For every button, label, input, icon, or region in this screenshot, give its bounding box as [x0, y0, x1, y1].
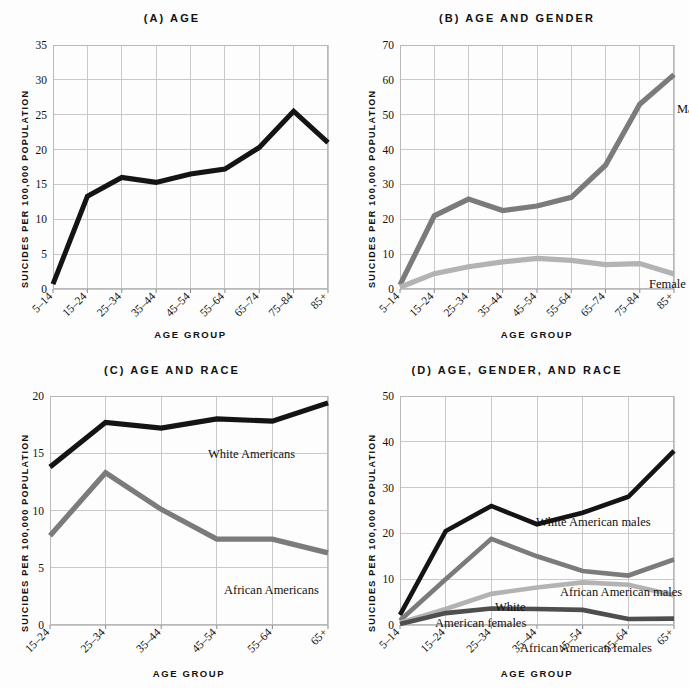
x-axis-tick-label: 65+ — [308, 626, 329, 647]
y-axis-tick-label: 15 — [33, 447, 45, 459]
y-axis-tick-label: 10 — [383, 248, 395, 260]
x-axis-tick-label: 45–54 — [163, 290, 192, 319]
x-axis-tick-label: 85+ — [308, 290, 329, 311]
series-inline-label: African Americans — [224, 583, 319, 597]
panel-b-plot: 0102030405060705–1415–2425–3435–4445–545… — [400, 45, 674, 289]
panel-b-svg: 0102030405060705–1415–2425–3435–4445–545… — [400, 45, 674, 289]
x-axis-tick-label: 25–34 — [78, 626, 107, 655]
panel-b-ylabel: SUICIDES PER 100,000 POPULATION — [367, 90, 377, 288]
x-axis-tick-label: 75–84 — [612, 290, 641, 319]
y-axis-tick-label: 40 — [383, 436, 395, 448]
y-axis-tick-label: 5 — [38, 562, 44, 574]
series-inline-label: Female — [649, 277, 686, 291]
series-inline-label: African American females — [520, 641, 652, 655]
panel-a-ylabel: SUICIDES PER 100,000 POPULATION — [20, 90, 30, 288]
panel-a-xlabel: AGE GROUP — [53, 329, 328, 340]
series-line-african-americans — [50, 473, 328, 553]
x-axis-tick-label: 35–44 — [134, 626, 163, 655]
y-axis-tick-label: 70 — [383, 39, 395, 51]
y-axis-tick-label: 10 — [33, 505, 45, 517]
x-axis-tick-label: 25–34 — [94, 290, 123, 319]
panel-a-plot: 051015202530355–1415–2425–3435–4445–5455… — [53, 45, 328, 289]
y-axis-tick-label: 25 — [36, 109, 48, 121]
x-axis-tick-label: 55–64 — [245, 626, 274, 655]
y-axis-tick-label: 60 — [383, 74, 395, 86]
y-axis-tick-label: 30 — [383, 482, 395, 494]
series-inline-label: Male — [677, 102, 689, 116]
y-axis-tick-label: 30 — [36, 74, 48, 86]
y-axis-tick-label: 20 — [383, 213, 395, 225]
x-axis-tick-label: 55–64 — [197, 290, 226, 319]
panel-a-svg: 051015202530355–1415–2425–3435–4445–5455… — [53, 45, 328, 289]
x-axis-tick-label: 55–64 — [544, 290, 573, 319]
series-inline-label: White American males — [536, 515, 651, 529]
y-axis-tick-label: 20 — [383, 527, 395, 539]
panel-d-plot: 010203040505–1415–2425–3435–4445–5455–64… — [400, 396, 674, 625]
panel-c-plot: 0510152015–2425–3435–4445–5455–6465+Whit… — [50, 396, 328, 625]
panel-a-title: (A) AGE — [0, 12, 344, 24]
panel-c-ylabel: SUICIDES PER 100,000 POPULATION — [20, 434, 30, 632]
panel-d-xlabel: AGE GROUP — [400, 668, 674, 679]
y-axis-tick-label: 5 — [41, 248, 47, 260]
suicide-rate-figure: (A) AGE SUICIDES PER 100,000 POPULATION … — [0, 0, 689, 688]
x-axis-tick-label: 25–34 — [441, 290, 470, 319]
panel-d-svg: 010203040505–1415–2425–3435–4445–5455–64… — [400, 396, 674, 625]
panel-b-xlabel: AGE GROUP — [400, 329, 674, 340]
y-axis-tick-label: 20 — [33, 390, 45, 402]
x-axis-tick-label: 75–84 — [266, 290, 295, 319]
x-axis-tick-label: 15–24 — [407, 290, 436, 319]
y-axis-tick-label: 50 — [383, 390, 395, 402]
x-axis-tick-label: 45–54 — [189, 626, 218, 655]
panel-c-svg: 0510152015–2425–3435–4445–5455–6465+Whit… — [50, 396, 328, 625]
x-axis-tick-label: 85+ — [654, 290, 675, 311]
x-axis-tick-label: 25–34 — [464, 626, 493, 655]
x-axis-tick-label: 65+ — [654, 626, 675, 647]
y-axis-tick-label: 30 — [383, 178, 395, 190]
series-inline-label: American females — [435, 616, 526, 630]
x-axis-tick-label: 5–14 — [377, 626, 402, 651]
x-axis-tick-label: 15–24 — [60, 290, 89, 319]
x-axis-tick-label: 15–24 — [418, 626, 447, 655]
panel-d-title: (D) AGE, GENDER, AND RACE — [345, 364, 689, 376]
x-axis-tick-label: 35–44 — [475, 290, 504, 319]
y-axis-tick-label: 15 — [36, 178, 48, 190]
series-inline-label: African American males — [560, 585, 682, 599]
x-axis-tick-label: 65–74 — [578, 290, 607, 319]
panel-c-xlabel: AGE GROUP — [50, 668, 328, 679]
panel-d: (D) AGE, GENDER, AND RACE SUICIDES PER 1… — [345, 344, 689, 688]
y-axis-tick-label: 10 — [383, 573, 395, 585]
series-inline-label: White Americans — [208, 447, 295, 461]
y-axis-tick-label: 40 — [383, 144, 395, 156]
x-axis-tick-label: 65–74 — [232, 290, 261, 319]
panel-a: (A) AGE SUICIDES PER 100,000 POPULATION … — [0, 0, 344, 344]
panel-c-title: (C) AGE AND RACE — [0, 364, 344, 376]
panel-b: (B) AGE AND GENDER SUICIDES PER 100,000 … — [345, 0, 689, 344]
panel-b-title: (B) AGE AND GENDER — [345, 12, 689, 24]
y-axis-tick-label: 50 — [383, 109, 395, 121]
x-axis-tick-label: 5–14 — [30, 290, 55, 315]
panel-c: (C) AGE AND RACE SUICIDES PER 100,000 PO… — [0, 344, 344, 688]
y-axis-tick-label: 20 — [36, 144, 48, 156]
x-axis-tick-label: 45–54 — [510, 290, 539, 319]
series-inline-label: White — [495, 600, 526, 614]
x-axis-tick-label: 35–44 — [129, 290, 158, 319]
x-axis-tick-label: 5–14 — [377, 290, 402, 315]
y-axis-tick-label: 35 — [36, 39, 48, 51]
panel-d-ylabel: SUICIDES PER 100,000 POPULATION — [367, 434, 377, 632]
y-axis-tick-label: 10 — [36, 213, 48, 225]
